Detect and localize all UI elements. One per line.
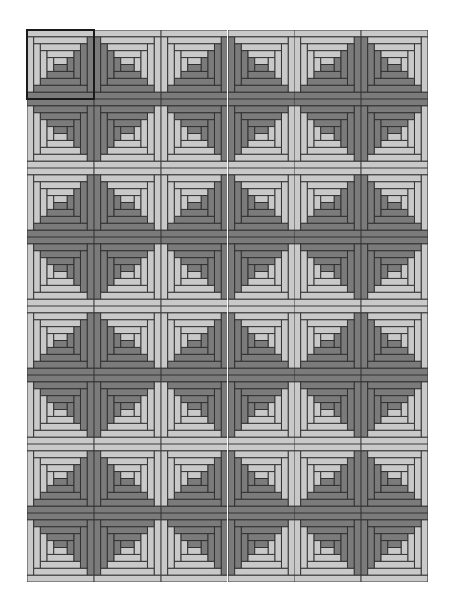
quilt-block [228, 168, 295, 237]
quilt-block [27, 306, 94, 375]
quilt-block [294, 30, 361, 99]
quilt-block [94, 375, 161, 444]
quilt-block [228, 99, 295, 168]
quilt-block [361, 99, 428, 168]
quilt-block [161, 513, 228, 582]
canvas: Log cabin quilt pattern [0, 0, 457, 613]
quilt-block [228, 30, 295, 99]
quilt-block [94, 99, 161, 168]
quilt-block [161, 237, 228, 306]
quilt-block [228, 306, 295, 375]
quilt-block [161, 306, 228, 375]
quilt-block [161, 375, 228, 444]
quilt-block [94, 306, 161, 375]
quilt-block [294, 444, 361, 513]
quilt-block [94, 30, 161, 99]
quilt-block [94, 237, 161, 306]
quilt-block [294, 306, 361, 375]
quilt-block [27, 375, 94, 444]
quilt-block [94, 513, 161, 582]
quilt-block [294, 99, 361, 168]
quilt-block [27, 444, 94, 513]
quilt-block [361, 30, 428, 99]
quilt-block [27, 99, 94, 168]
quilt-block [228, 375, 295, 444]
quilt-block [361, 306, 428, 375]
quilt-block [94, 444, 161, 513]
quilt-block [361, 375, 428, 444]
quilt-block [294, 237, 361, 306]
quilt-block [361, 168, 428, 237]
quilt-block [27, 30, 94, 99]
quilt-block [161, 444, 228, 513]
quilt-grid [27, 30, 428, 582]
quilt-block [27, 168, 94, 237]
quilt-block [228, 513, 295, 582]
quilt-block [361, 444, 428, 513]
quilt-block [294, 513, 361, 582]
quilt-block [361, 237, 428, 306]
quilt-block [94, 168, 161, 237]
quilt-block [161, 168, 228, 237]
quilt-block [228, 237, 295, 306]
quilt-block [161, 99, 228, 168]
quilt-block [294, 375, 361, 444]
quilt-block [161, 30, 228, 99]
quilt-block [361, 513, 428, 582]
quilt-block [27, 513, 94, 582]
quilt-block [294, 168, 361, 237]
quilt-block [228, 444, 295, 513]
quilt-block [27, 237, 94, 306]
quilt-title: Log cabin quilt pattern [0, 0, 1, 1]
